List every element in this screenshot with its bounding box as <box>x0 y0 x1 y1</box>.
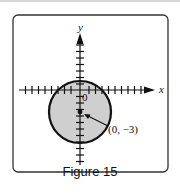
x-axis-label: x <box>158 83 164 95</box>
y-axis-arrow-icon <box>77 33 84 44</box>
y-axis-label: y <box>77 21 83 33</box>
origin-label: 0 <box>82 91 88 103</box>
center-point <box>78 110 83 115</box>
point-label: (0, −3) <box>108 123 138 136</box>
x-axis-arrow-icon <box>144 87 155 94</box>
figure-caption: Figure 15 <box>0 164 180 179</box>
